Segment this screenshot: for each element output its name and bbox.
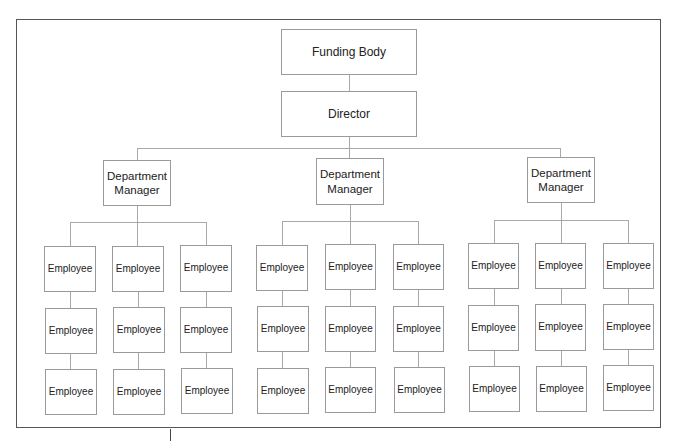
connector-group3-col3 [628,220,629,244]
node-label: Employee [472,383,516,396]
connector-row [350,290,351,306]
node-label: Funding Body [312,45,386,60]
node-employee: Employee [113,307,165,353]
node-label: Employee [606,382,650,395]
node-department-manager-2: Department Manager [316,158,384,205]
node-employee: Employee [536,366,587,412]
connector-group3-col1 [494,220,495,244]
node-director: Director [281,91,417,137]
node-label: Employee [48,263,92,276]
node-employee: Employee [535,304,586,351]
connector-row [561,351,562,367]
node-employee: Employee [325,367,376,413]
connector-row [628,350,629,366]
node-label: Employee [117,386,161,399]
connector-group1-col1 [70,222,71,246]
node-label: Employee [397,384,441,397]
connector-row [282,291,283,307]
node-label: Employee [49,325,93,338]
connector-group3-col2 [561,220,562,244]
connector-manager2-down [350,205,351,221]
node-employee: Employee [256,245,308,291]
node-label: Employee [538,321,582,334]
node-employee: Employee [603,304,654,350]
node-employee: Employee [393,306,444,352]
connector-group1-bus [70,222,207,223]
node-label: Employee [328,323,372,336]
node-label: Employee [396,261,440,274]
connector-manager-bus [137,148,561,149]
node-employee: Employee [45,308,97,354]
connector-row [70,354,71,370]
connector-row [138,353,139,369]
node-label: Employee [606,260,650,273]
connector-row [350,352,351,368]
node-label: Employee [260,262,304,275]
connector-row [138,292,139,308]
node-employee: Employee [394,367,445,413]
node-employee: Employee [181,368,233,414]
node-funding-body: Funding Body [281,29,417,75]
node-label: Employee [184,324,228,337]
connector-bus-manager-1 [137,148,138,160]
node-employee: Employee [113,369,165,415]
connector-row [418,290,419,306]
node-label: Employee [49,386,93,399]
node-employee: Employee [603,365,654,411]
connector-group2-col2 [350,221,351,245]
node-employee: Employee [45,369,97,415]
node-label: Employee [261,385,305,398]
node-label: Employee [471,260,515,273]
node-label: Director [328,107,370,122]
connector-row [70,292,71,308]
node-label: Employee [539,383,583,396]
node-employee: Employee [257,306,309,352]
node-employee: Employee [44,246,96,292]
connector-group2-col3 [418,221,419,245]
node-employee: Employee [257,368,309,414]
node-employee: Employee [325,306,376,352]
node-label: Employee [184,262,228,275]
connector-group1-col3 [206,222,207,246]
node-label: Employee [538,260,582,273]
node-label: Department Manager [528,166,594,195]
node-employee: Employee [469,366,520,412]
connector-funding-director [349,75,350,91]
node-label: Department Manager [317,167,383,196]
node-employee: Employee [112,246,164,292]
node-label: Employee [606,321,650,334]
node-employee: Employee [393,244,444,290]
connector-row [282,352,283,368]
node-label: Employee [471,322,515,335]
node-department-manager-3: Department Manager [527,157,595,203]
node-label: Employee [396,323,440,336]
frame-connector-stub [170,429,171,441]
connector-row [206,292,207,307]
connector-row [494,289,495,305]
node-label: Department Manager [104,169,170,198]
node-employee: Employee [468,305,519,351]
node-label: Employee [185,385,229,398]
node-label: Employee [116,263,160,276]
connector-bus-manager-3 [560,148,561,157]
node-label: Employee [261,323,305,336]
connector-group1-col2 [137,222,138,246]
connector-row [628,289,629,305]
connector-row [561,289,562,305]
connector-manager3-down [561,203,562,220]
connector-row [418,352,419,368]
node-employee: Employee [468,243,519,289]
connector-row [494,351,495,367]
connector-row [206,353,207,369]
node-employee: Employee [603,243,654,289]
node-employee: Employee [535,243,586,289]
node-label: Employee [328,261,372,274]
node-employee: Employee [180,245,232,292]
node-employee: Employee [180,307,232,353]
node-employee: Employee [325,244,376,290]
node-label: Employee [117,324,161,337]
node-label: Employee [328,384,372,397]
connector-manager1-down [137,206,138,222]
node-department-manager-1: Department Manager [103,160,171,206]
connector-group2-col1 [282,221,283,245]
